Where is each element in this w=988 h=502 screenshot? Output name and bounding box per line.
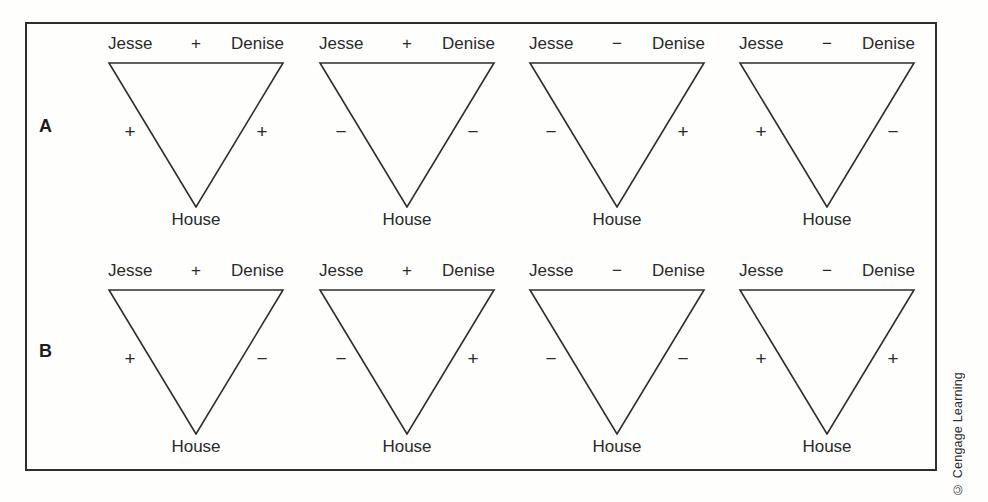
house-label: House [317, 437, 497, 457]
jesse-denise-sign: − [805, 261, 849, 281]
triad-b4: Jesse − Denise + + House [737, 261, 917, 461]
jesse-house-sign: + [120, 121, 140, 143]
house-label: House [527, 210, 707, 230]
triad-top-edge: Jesse + Denise [317, 261, 497, 285]
jesse-house-sign: − [541, 121, 561, 143]
jesse-denise-sign: − [805, 34, 849, 54]
person-jesse-label: Jesse [739, 34, 805, 54]
house-label: House [737, 437, 917, 457]
person-jesse-label: Jesse [108, 34, 174, 54]
triad-a4: Jesse − Denise + − House [737, 34, 917, 234]
house-label: House [737, 210, 917, 230]
triad-top-edge: Jesse + Denise [106, 261, 286, 285]
person-jesse-label: Jesse [529, 34, 595, 54]
jesse-denise-sign: + [174, 261, 218, 281]
copyright-credit: © Cengage Learning [951, 348, 965, 496]
triad-a3: Jesse − Denise − + House [527, 34, 707, 234]
person-denise-label: Denise [639, 34, 705, 54]
denise-house-sign: + [252, 121, 272, 143]
person-denise-label: Denise [639, 261, 705, 281]
jesse-denise-sign: + [174, 34, 218, 54]
jesse-denise-sign: − [595, 34, 639, 54]
person-denise-label: Denise [849, 261, 915, 281]
triad-top-edge: Jesse − Denise [737, 261, 917, 285]
person-denise-label: Denise [429, 34, 495, 54]
triad-top-edge: Jesse − Denise [527, 261, 707, 285]
person-denise-label: Denise [218, 34, 284, 54]
person-jesse-label: Jesse [319, 261, 385, 281]
jesse-house-sign: − [331, 121, 351, 143]
person-denise-label: Denise [429, 261, 495, 281]
house-label: House [106, 210, 286, 230]
triad-top-edge: Jesse − Denise [737, 34, 917, 58]
denise-house-sign: + [883, 348, 903, 370]
person-jesse-label: Jesse [108, 261, 174, 281]
jesse-house-sign: + [120, 348, 140, 370]
house-label: House [527, 437, 707, 457]
denise-house-sign: − [252, 348, 272, 370]
denise-house-sign: − [463, 121, 483, 143]
triad-top-edge: Jesse + Denise [106, 34, 286, 58]
person-jesse-label: Jesse [739, 261, 805, 281]
house-label: House [106, 437, 286, 457]
person-denise-label: Denise [849, 34, 915, 54]
triad-a2: Jesse + Denise − − House [317, 34, 497, 234]
row-label-a: A [39, 116, 52, 137]
triad-b1: Jesse + Denise + − House [106, 261, 286, 461]
triad-b3: Jesse − Denise − − House [527, 261, 707, 461]
person-jesse-label: Jesse [319, 34, 385, 54]
person-jesse-label: Jesse [529, 261, 595, 281]
jesse-house-sign: − [331, 348, 351, 370]
triad-b2: Jesse + Denise − + House [317, 261, 497, 461]
jesse-house-sign: − [541, 348, 561, 370]
jesse-denise-sign: − [595, 261, 639, 281]
triad-top-edge: Jesse + Denise [317, 34, 497, 58]
triad-top-edge: Jesse − Denise [527, 34, 707, 58]
denise-house-sign: + [463, 348, 483, 370]
jesse-denise-sign: + [385, 261, 429, 281]
jesse-denise-sign: + [385, 34, 429, 54]
denise-house-sign: − [673, 348, 693, 370]
person-denise-label: Denise [218, 261, 284, 281]
jesse-house-sign: + [751, 121, 771, 143]
jesse-house-sign: + [751, 348, 771, 370]
denise-house-sign: + [673, 121, 693, 143]
balance-theory-figure: A B Jesse + Denise + + House Jesse + Den… [0, 0, 988, 502]
triad-a1: Jesse + Denise + + House [106, 34, 286, 234]
denise-house-sign: − [883, 121, 903, 143]
house-label: House [317, 210, 497, 230]
row-label-b: B [39, 341, 52, 362]
